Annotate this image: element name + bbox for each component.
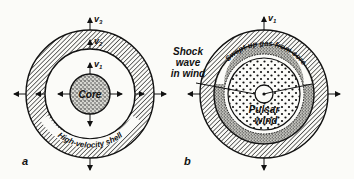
pulsar-wind-label-line2: wind (255, 115, 279, 126)
shock-label-line1: Shock (160, 46, 216, 57)
shock-wave-label: Shock wave in wind (160, 46, 216, 79)
v1-label-b: v1 (268, 13, 277, 24)
pulsar-wind-label-line1: Pulsar (249, 104, 281, 115)
shock-label-line2: wave (160, 57, 216, 68)
panel-a-letter: a (22, 155, 28, 167)
v3-label: v3 (94, 14, 103, 25)
panel-b-letter: b (184, 155, 191, 167)
supernova-remnant-diagram: High-velocity shell Core v1 v2 v3 (0, 0, 354, 179)
core-label: Core (79, 89, 102, 100)
panel-b: Swept-up gas from core Pulsar wind v1 (188, 13, 340, 170)
panel-a: High-velocity shell Core v1 v2 v3 (14, 14, 166, 170)
shock-label-line3: in wind (160, 68, 216, 79)
